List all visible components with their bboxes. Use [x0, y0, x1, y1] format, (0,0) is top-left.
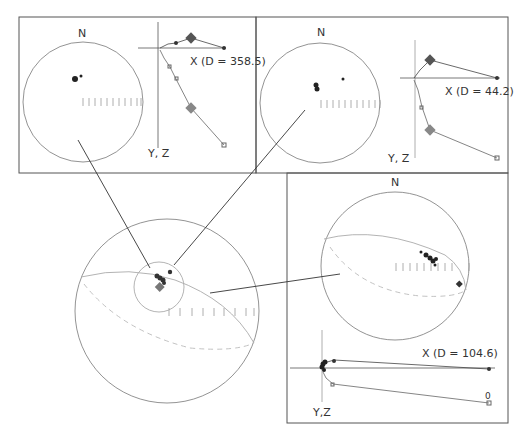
x-axis-label: X (D = 358.5) — [190, 55, 266, 68]
scale-ticks — [83, 98, 141, 106]
north-label: N — [317, 26, 325, 39]
x-axis-label: X (D = 104.6) — [422, 347, 498, 360]
great-circle — [324, 235, 466, 290]
panel-bottom-right: N X (D = 104.6) Y,Z 0 — [287, 173, 508, 423]
stereonet-circle — [321, 192, 469, 340]
data-point — [80, 75, 83, 78]
panel-top-left: N X (D = 358.5) Y, Z — [19, 17, 266, 173]
scale-ticks — [321, 100, 380, 108]
north-label: N — [78, 27, 86, 40]
north-label: N — [391, 176, 399, 189]
great-circle-lower — [84, 284, 254, 349]
great-circle-lower — [330, 247, 466, 296]
great-circle — [81, 272, 254, 343]
main-stereonet — [75, 219, 259, 403]
panel-top-right: N X (D = 44.2) Y, Z — [256, 17, 514, 173]
scale-ticks — [169, 308, 254, 316]
data-point — [72, 76, 78, 82]
yz-axis-label: Y,Z — [312, 406, 331, 419]
diamond-marker — [185, 32, 196, 43]
stereonet-circle — [260, 43, 380, 163]
connector-lines — [78, 110, 340, 293]
origin-label: 0 — [485, 391, 491, 401]
yz-axis-label: Y, Z — [387, 152, 410, 165]
x-axis-label: X (D = 44.2) — [445, 85, 514, 98]
yz-axis-label: Y, Z — [147, 147, 170, 160]
